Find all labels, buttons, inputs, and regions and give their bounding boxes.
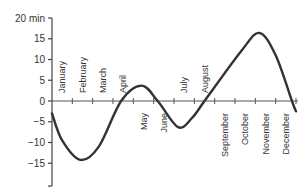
month-label-january: January xyxy=(57,60,67,93)
month-label-may: May xyxy=(139,113,149,131)
month-label-october: October xyxy=(240,113,250,145)
month-label-december: December xyxy=(281,113,291,155)
y-tick-label: −15 xyxy=(28,158,45,169)
month-label-august: August xyxy=(200,64,210,93)
month-label-july: July xyxy=(179,76,189,93)
month-label-march: March xyxy=(98,68,108,93)
month-label-february: February xyxy=(78,56,88,93)
equation-of-time-chart: 20 min151050−5−10−15 JanuaryFebruaryMarc… xyxy=(0,0,307,189)
data-curve xyxy=(52,33,296,160)
y-tick-label: 0 xyxy=(39,96,45,107)
month-label-november: November xyxy=(261,113,271,155)
y-tick-label: 20 min xyxy=(15,13,45,24)
month-label-september: September xyxy=(220,113,230,157)
y-tick-label: 5 xyxy=(39,75,45,86)
x-axis xyxy=(52,98,298,104)
y-tick-label: 10 xyxy=(34,54,46,65)
y-tick-label: 15 xyxy=(34,33,46,44)
y-axis: 20 min151050−5−10−15 xyxy=(15,13,52,187)
month-label-april: April xyxy=(118,75,128,93)
y-tick-label: −5 xyxy=(34,116,46,127)
month-labels: JanuaryFebruaryMarchAprilMayJuneJulyAugu… xyxy=(57,56,291,157)
y-tick-label: −10 xyxy=(28,137,45,148)
